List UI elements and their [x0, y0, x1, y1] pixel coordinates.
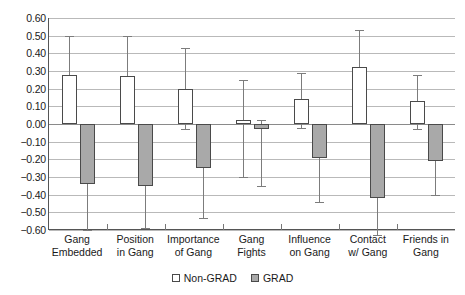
- bar-grad[interactable]: [370, 124, 385, 198]
- plot-area: [48, 18, 455, 230]
- bar-nongrad[interactable]: [62, 75, 77, 124]
- bar-grad[interactable]: [254, 124, 269, 129]
- legend-item[interactable]: GRAD: [251, 272, 293, 284]
- x-tick-label-line: Importance: [164, 233, 222, 246]
- error-bar-cap-lower: [431, 195, 440, 196]
- gridline--0.60: [49, 230, 455, 231]
- bar-nongrad[interactable]: [352, 67, 367, 124]
- x-axis-category-labels: GangEmbeddedPositionin GangImportanceof …: [48, 233, 455, 269]
- error-bar-line: [243, 80, 244, 177]
- bar-group: [282, 18, 340, 229]
- legend-swatch-nongrad-icon: [172, 274, 180, 282]
- y-axis-tick-labels: 0.600.500.400.300.200.100.00−0.10−0.20−0…: [0, 18, 46, 230]
- bar-grad[interactable]: [312, 124, 327, 158]
- y-tick-label: 0.10: [2, 101, 46, 111]
- x-tick-label: Friends inGang: [397, 233, 455, 259]
- bar-nongrad[interactable]: [178, 89, 193, 124]
- y-tick-label: 0.30: [2, 66, 46, 76]
- error-bar-cap-lower: [239, 177, 248, 178]
- error-bar-cap-lower: [413, 129, 422, 130]
- x-tick-label-line: Position: [106, 233, 164, 246]
- legend-item[interactable]: Non-GRAD: [172, 272, 237, 284]
- error-bar-cap-upper: [181, 48, 190, 49]
- y-tick-label: 0.40: [2, 48, 46, 58]
- bar-grad[interactable]: [196, 124, 211, 168]
- x-tick-label: Influenceon Gang: [281, 233, 339, 259]
- error-bar-cap-upper: [239, 80, 248, 81]
- y-tick-label: 0.60: [2, 13, 46, 23]
- y-tick-label: 0.50: [2, 31, 46, 41]
- y-tick-label: 0.20: [2, 84, 46, 94]
- bar-grad[interactable]: [428, 124, 443, 161]
- y-tick-label: −0.60: [2, 225, 46, 235]
- bar-nongrad[interactable]: [236, 120, 251, 124]
- error-bar-cap-upper: [355, 30, 364, 31]
- x-tick-label-line: Gang: [48, 233, 106, 246]
- bar-nongrad[interactable]: [120, 76, 135, 124]
- error-bar-cap-upper: [257, 120, 266, 121]
- chart-legend: Non-GRADGRAD: [0, 272, 465, 284]
- x-tick-label: Contactw/ Gang: [339, 233, 397, 259]
- error-bar-line: [261, 120, 262, 185]
- error-bar-cap-lower: [199, 218, 208, 219]
- x-tick-label-line: of Gang: [164, 246, 222, 259]
- error-bar-cap-lower: [257, 186, 266, 187]
- bar-group: [165, 18, 223, 229]
- legend-label: Non-GRAD: [184, 272, 237, 284]
- x-tick-label: Positionin Gang: [106, 233, 164, 259]
- bar-group: [223, 18, 281, 229]
- error-bar-cap-lower: [83, 230, 92, 231]
- x-tick-label-line: w/ Gang: [339, 246, 397, 259]
- x-tick-label-line: in Gang: [106, 246, 164, 259]
- x-tick-label-line: Influence: [281, 233, 339, 246]
- legend-label: GRAD: [263, 272, 293, 284]
- y-tick-label: 0.00: [2, 119, 46, 129]
- bar-group: [107, 18, 165, 229]
- bar-grad[interactable]: [138, 124, 153, 186]
- x-tick-label-line: Fights: [222, 246, 280, 259]
- x-tick-label: Importanceof Gang: [164, 233, 222, 259]
- y-tick-label: −0.50: [2, 207, 46, 217]
- chart-container: 0.600.500.400.300.200.100.00−0.10−0.20−0…: [0, 0, 465, 295]
- error-bar-cap-lower: [181, 129, 190, 130]
- x-tick-label-line: Embedded: [48, 246, 106, 259]
- x-tick-label-line: Gang: [222, 233, 280, 246]
- x-tick-label-line: Contact: [339, 233, 397, 246]
- x-tick-label: GangFights: [222, 233, 280, 259]
- x-tick-label: GangEmbedded: [48, 233, 106, 259]
- error-bar-cap-upper: [413, 75, 422, 76]
- x-tick-label-line: Gang: [397, 246, 455, 259]
- error-bar-cap-upper: [297, 73, 306, 74]
- error-bar-cap-lower: [315, 202, 324, 203]
- y-tick-label: −0.20: [2, 154, 46, 164]
- bar-nongrad[interactable]: [294, 99, 309, 124]
- bar-group: [49, 18, 107, 229]
- error-bar-cap-upper: [123, 36, 132, 37]
- error-bar-cap-lower: [297, 128, 306, 129]
- bar-grad[interactable]: [80, 124, 95, 184]
- bar-group: [340, 18, 398, 229]
- legend-swatch-grad-icon: [251, 274, 259, 282]
- y-tick-label: −0.30: [2, 172, 46, 182]
- y-tick-label: −0.10: [2, 137, 46, 147]
- bar-group: [398, 18, 456, 229]
- bar-nongrad[interactable]: [410, 101, 425, 124]
- y-tick-label: −0.40: [2, 190, 46, 200]
- x-tick-label-line: on Gang: [281, 246, 339, 259]
- x-tick-label-line: Friends in: [397, 233, 455, 246]
- error-bar-cap-lower: [141, 228, 150, 229]
- error-bar-cap-upper: [65, 36, 74, 37]
